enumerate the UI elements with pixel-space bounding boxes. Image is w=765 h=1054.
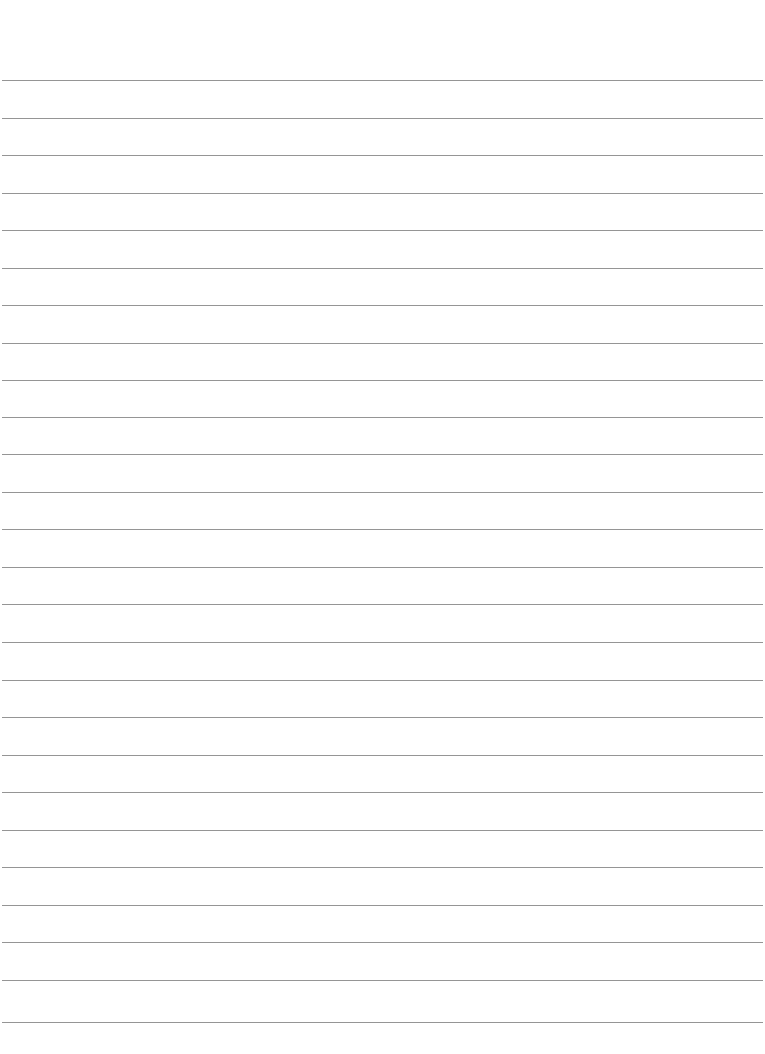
- ruled-line: [2, 305, 763, 307]
- lined-paper-page: [0, 0, 765, 1054]
- ruled-line: [2, 755, 763, 757]
- ruled-line: [2, 155, 763, 157]
- ruled-line: [2, 380, 763, 382]
- ruled-line: [2, 417, 763, 419]
- ruled-line: [2, 492, 763, 494]
- ruled-line: [2, 454, 763, 456]
- ruled-line: [2, 230, 763, 232]
- ruled-line: [2, 980, 763, 982]
- ruled-line: [2, 680, 763, 682]
- ruled-line: [2, 80, 763, 82]
- ruled-line: [2, 942, 763, 944]
- ruled-line: [2, 268, 763, 270]
- ruled-line: [2, 604, 763, 606]
- ruled-line: [2, 1022, 763, 1024]
- ruled-line: [2, 792, 763, 794]
- ruled-line: [2, 343, 763, 345]
- ruled-line: [2, 717, 763, 719]
- ruled-line: [2, 830, 763, 832]
- ruled-line: [2, 905, 763, 907]
- ruled-line: [2, 193, 763, 195]
- ruled-line: [2, 118, 763, 120]
- ruled-line: [2, 867, 763, 869]
- ruled-line: [2, 642, 763, 644]
- ruled-line: [2, 529, 763, 531]
- ruled-line: [2, 567, 763, 569]
